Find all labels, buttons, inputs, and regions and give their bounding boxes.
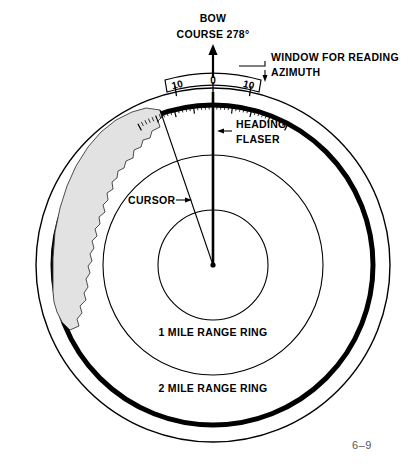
bow-label: BOW	[200, 12, 227, 24]
page-marker: 6–9	[352, 439, 372, 451]
range-ring-1-label: 1 MILE RANGE RING	[159, 326, 268, 338]
ppi-scope-drawing: 10 0 10 BOW COURSE 278° WINDOW FOR READI…	[0, 0, 419, 476]
course-label: COURSE 278°	[177, 28, 250, 40]
window-label-line2: AZIMUTH	[271, 66, 320, 78]
radar-ppi-figure: 10 0 10 BOW COURSE 278° WINDOW FOR READI…	[0, 0, 419, 476]
heading-label-line2: FLASER	[236, 133, 280, 145]
range-ring-2-label: 2 MILE RANGE RING	[159, 382, 268, 394]
window-label-line1: WINDOW FOR READING	[271, 51, 399, 63]
cursor-label: CURSOR	[128, 194, 175, 206]
sweep-origin-dot	[210, 262, 215, 267]
heading-label-line1: HEADING	[236, 118, 287, 130]
